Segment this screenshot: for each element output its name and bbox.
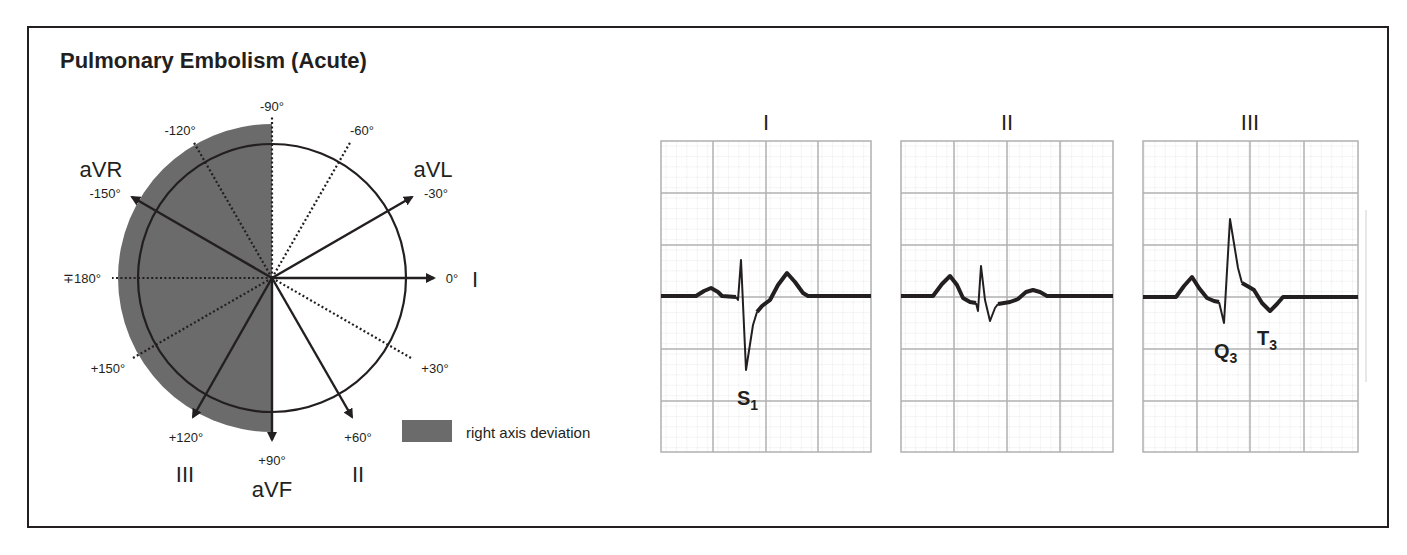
legend-swatch [402, 420, 452, 442]
label-minus-30: -30° [424, 186, 448, 201]
label-180: ∓180° [63, 271, 101, 286]
label-minus-120: -120° [164, 123, 195, 138]
ecg-panel-I: I S1 [661, 110, 871, 452]
legend-label: right axis deviation [466, 424, 590, 441]
lead-label-I: I [472, 267, 478, 292]
label-plus-90: +90° [258, 453, 285, 468]
label-minus-60: -60° [350, 123, 374, 138]
label-plus-120: +120° [169, 430, 203, 445]
label-minus-90: -90° [260, 99, 284, 114]
ecg-panel-II: II [901, 110, 1113, 452]
label-0: 0° [446, 271, 458, 286]
ecg-lead-title-II: II [1001, 110, 1013, 135]
lead-label-aVR: aVR [80, 157, 123, 182]
label-plus-150: +150° [91, 361, 125, 376]
lead-label-aVL: aVL [413, 157, 452, 182]
ecg-panel-III: III Q3 T3 [1143, 110, 1358, 452]
label-minus-150: -150° [89, 186, 120, 201]
lead-II-arrow [272, 278, 352, 417]
hexaxial-diagram: -90° -120° -60° -150° -30° ∓180° 0° +150… [63, 99, 590, 502]
label-plus-60: +60° [344, 430, 371, 445]
lead-label-aVF: aVF [252, 477, 292, 502]
ecg-lead-title-III: III [1241, 110, 1259, 135]
lead-label-II: II [352, 462, 364, 487]
ecg-lead-title-I: I [763, 110, 769, 135]
lead-label-III: III [176, 462, 194, 487]
label-plus-30: +30° [421, 361, 448, 376]
lead-aVL-arrow [272, 197, 412, 278]
